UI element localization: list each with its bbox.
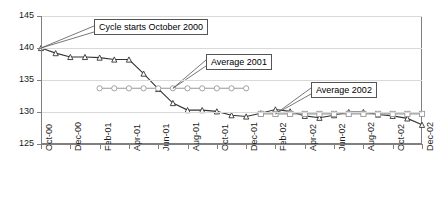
x-axis-tick-label: Oct-02 <box>397 124 406 151</box>
x-axis-tick-label: Aug-01 <box>192 122 201 151</box>
y-axis-tick-label: 140 <box>3 43 34 52</box>
gridline-y <box>41 112 422 113</box>
y-axis-tick-label: 125 <box>3 139 34 148</box>
annotation-callout: Average 2001 <box>206 54 272 70</box>
chart-overlay <box>0 0 447 201</box>
gridline-y <box>41 48 422 49</box>
annotation-leader-line <box>275 88 311 114</box>
gridline-y <box>41 16 422 17</box>
x-axis-tick-label: Apr-01 <box>133 124 142 151</box>
annotation-callout: Average 2002 <box>311 82 377 98</box>
x-axis-tick-label: Oct-01 <box>221 124 230 151</box>
annotation-leader-line <box>41 26 94 48</box>
x-axis-tick-label: Aug-02 <box>367 122 376 151</box>
x-axis-tick-label: Jun-01 <box>162 123 171 151</box>
y-axis-tick-label: 145 <box>3 11 34 20</box>
annotation-callout: Cycle starts October 2000 <box>94 19 208 35</box>
x-axis-tick-label: Dec-01 <box>250 122 259 151</box>
x-axis-tick-label: Dec-00 <box>74 122 83 151</box>
x-axis-tick-label: Oct-00 <box>45 124 54 151</box>
x-axis-tick-label: Feb-01 <box>104 122 113 151</box>
y-axis-tick-label: 135 <box>3 75 34 84</box>
y-axis-tick-label: 130 <box>3 107 34 116</box>
x-axis-line <box>41 144 423 145</box>
gridline-y <box>41 80 422 81</box>
annotation-leader-line <box>173 60 206 88</box>
chart-container: 125130135140145Oct-00Dec-00Feb-01Apr-01J… <box>0 0 447 201</box>
x-axis-tick-label: Jun-02 <box>338 123 347 151</box>
x-axis-tick-label: Apr-02 <box>309 124 318 151</box>
x-axis-tick-label: Feb-02 <box>279 122 288 151</box>
x-axis-tick-label: Dec-02 <box>426 122 435 151</box>
y-axis-line <box>41 16 42 145</box>
